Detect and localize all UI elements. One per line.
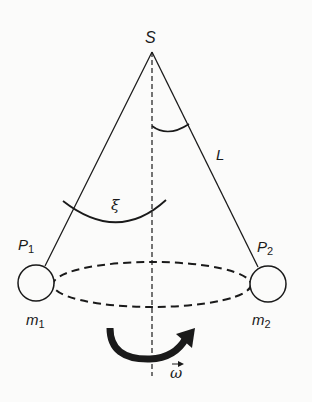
string-right [152, 52, 258, 267]
mass-1-circle [18, 265, 54, 301]
xi-label: ξ [111, 196, 120, 214]
mass-2-circle [250, 266, 286, 302]
point1-label: P1 [18, 236, 34, 255]
length-label: L [216, 146, 224, 163]
angle-arc-small [152, 124, 189, 132]
mass2-label: m2 [252, 311, 271, 330]
pivot-label: S [145, 29, 156, 46]
point2-label: P2 [257, 238, 273, 257]
conical-pendulum-diagram: S L ξ P1 P2 m1 m2 ω [0, 0, 312, 402]
mass1-label: m1 [26, 311, 45, 330]
diagram-svg: S L ξ P1 P2 m1 m2 ω [0, 0, 312, 402]
omega-label: ω [170, 364, 182, 382]
rotation-arrow-icon [110, 328, 186, 359]
string-left [45, 52, 152, 266]
